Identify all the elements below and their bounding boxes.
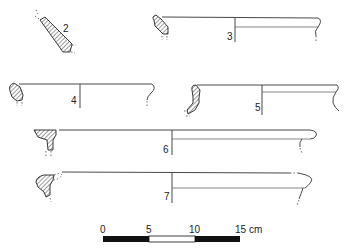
pottery-figure: 2 3 4 5 <box>0 0 349 251</box>
vessel-3-profile: 3 <box>153 15 321 42</box>
scale-segment-white <box>149 236 195 242</box>
scale-tick-0: 0 <box>100 224 106 235</box>
vessel-7-number: 7 <box>164 191 170 202</box>
vessel-6-profile: 6 <box>34 130 316 156</box>
vessel-4-number: 4 <box>71 95 77 106</box>
scale-segment-black-2 <box>195 236 240 242</box>
vessel-6-number: 6 <box>163 144 169 155</box>
scale-segment-black-1 <box>103 236 149 242</box>
scale-tick-15cm: 15 cm <box>235 224 262 235</box>
scale-bar: 0 5 10 15 cm <box>100 224 262 242</box>
vessel-7-profile: 7 <box>36 172 312 205</box>
vessel-2-number: 2 <box>63 23 69 34</box>
scale-tick-10: 10 <box>189 224 201 235</box>
vessel-5-number: 5 <box>255 102 261 113</box>
vessel-3-number: 3 <box>227 31 233 42</box>
vessel-4-profile: 4 <box>10 83 155 108</box>
vessel-2-profile: 2 <box>35 10 76 53</box>
scale-tick-5: 5 <box>146 224 152 235</box>
vessel-5-profile: 5 <box>184 85 339 116</box>
